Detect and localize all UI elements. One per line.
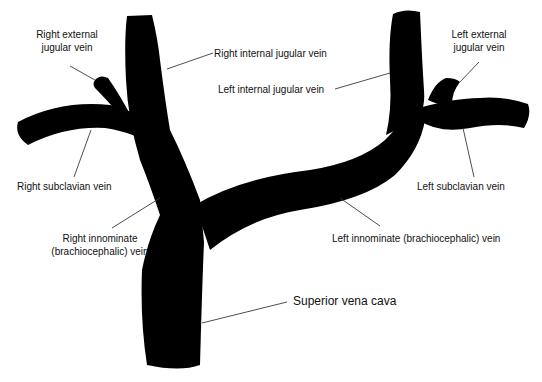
label-line: Right innominate: [44, 232, 156, 245]
label-left-innominate-vein: Left innominate (brachiocephalic) vein: [332, 232, 500, 245]
leader-superior-vena-cava: [202, 302, 287, 323]
label-left-subclavian-vein: Left subclavian vein: [417, 180, 505, 193]
label-left-internal-jugular-vein: Left internal jugular vein: [218, 83, 324, 96]
label-line: (brachiocephalic) vein: [44, 245, 156, 258]
label-line: Right internal jugular vein: [214, 48, 327, 59]
label-line: Right subclavian vein: [17, 181, 112, 192]
label-line: Left internal jugular vein: [218, 84, 324, 95]
leader-right-internal-jugular: [167, 53, 213, 69]
label-line: Right external: [28, 28, 106, 41]
label-left-external-jugular-vein: Left external jugular vein: [440, 28, 518, 54]
label-superior-vena-cava: Superior vena cava: [293, 295, 396, 308]
leader-left-innominate: [340, 198, 380, 226]
right-internal-jugular-vein-shape: [125, 15, 204, 369]
label-line: jugular vein: [28, 41, 106, 54]
leader-left-subclavian: [463, 128, 474, 177]
label-right-internal-jugular-vein: Right internal jugular vein: [214, 47, 327, 60]
leader-right-subclavian: [74, 130, 91, 177]
leader-right-innominate: [112, 198, 160, 228]
label-right-innominate-vein: Right innominate (brachiocephalic) vein: [44, 232, 156, 258]
leader-right-external-jugular: [70, 66, 95, 80]
label-line: Left innominate (brachiocephalic) vein: [332, 233, 500, 244]
label-line: Left external: [440, 28, 518, 41]
label-right-external-jugular-vein: Right external jugular vein: [28, 28, 106, 54]
label-right-subclavian-vein: Right subclavian vein: [17, 180, 112, 193]
leader-left-external-jugular: [460, 62, 479, 82]
label-line: Left subclavian vein: [417, 181, 505, 192]
leader-left-internal-jugular: [335, 73, 390, 89]
label-line: Superior vena cava: [293, 294, 396, 308]
label-line: jugular vein: [440, 41, 518, 54]
